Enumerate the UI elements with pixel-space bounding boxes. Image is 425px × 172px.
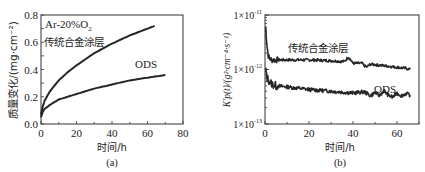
series-label-ods-b: ODS	[374, 83, 396, 95]
y-tick-label: 0.8	[24, 9, 38, 21]
panel-caption-a: (a)	[106, 157, 118, 169]
series-label-conventional-coating-a: 传统合金涂层	[44, 36, 104, 48]
y-tick-label: 0.0	[24, 118, 38, 130]
y-tick-label: 0.6	[24, 36, 38, 48]
atmosphere-annotation: Ar-20%O2	[45, 18, 92, 33]
series-label-ods-a: ODS	[135, 58, 157, 70]
x-tick-label: 80	[178, 127, 190, 139]
y-tick-label: 1×10-12	[233, 63, 262, 75]
plot-frame-b	[265, 15, 419, 124]
x-tick-labels-b: 0 20 40 60	[262, 127, 403, 139]
y-axis-label-a: 质量变化/(mg·cm⁻²)	[7, 21, 19, 119]
x-tick-label: 60	[392, 127, 404, 139]
x-tick-label: 40	[348, 127, 360, 139]
series-label-conventional-coating-b: 传统合金涂层	[288, 42, 348, 54]
y-axis-label-b: K'p(t)/(g²·cm⁻⁴·s⁻¹)	[222, 33, 233, 108]
x-tick-label: 0	[38, 127, 44, 139]
y-tick-labels-b: 1×10-11 1×10-12 1×10-13	[233, 9, 262, 130]
x-tick-labels-a: 0 20 40 60 80	[38, 127, 189, 139]
panel-caption-b: (b)	[334, 157, 347, 169]
x-axis-label-a: 时间/h	[97, 141, 127, 153]
axis-ticks-a	[41, 15, 183, 124]
chart-panel-a: 0.0 0.2 0.4 0.6 0.8 0 20 40 60 80 Ar-20%…	[0, 0, 212, 172]
x-tick-label: 20	[304, 127, 316, 139]
axis-ticks-b	[265, 15, 419, 124]
y-tick-label: 1×10-11	[234, 9, 262, 21]
chart-b-svg: 1×10-11 1×10-12 1×10-13 0 20 40 60 传统合金涂…	[212, 0, 425, 172]
x-axis-label-b: 时间/h	[325, 141, 355, 153]
y-tick-label: 1×10-13	[233, 118, 262, 130]
y-tick-labels-a: 0.0 0.2 0.4 0.6 0.8	[24, 9, 38, 130]
series-line-ods-a	[41, 75, 165, 117]
x-tick-label: 40	[107, 127, 119, 139]
chart-panel-b: 1×10-11 1×10-12 1×10-13 0 20 40 60 传统合金涂…	[212, 0, 425, 172]
x-tick-label: 0	[262, 127, 268, 139]
y-tick-label: 0.2	[24, 91, 38, 103]
x-tick-label: 60	[142, 127, 154, 139]
chart-a-svg: 0.0 0.2 0.4 0.6 0.8 0 20 40 60 80 Ar-20%…	[0, 0, 212, 172]
plot-frame-a	[41, 15, 183, 124]
x-tick-label: 20	[71, 127, 83, 139]
y-tick-label: 0.4	[24, 64, 38, 76]
